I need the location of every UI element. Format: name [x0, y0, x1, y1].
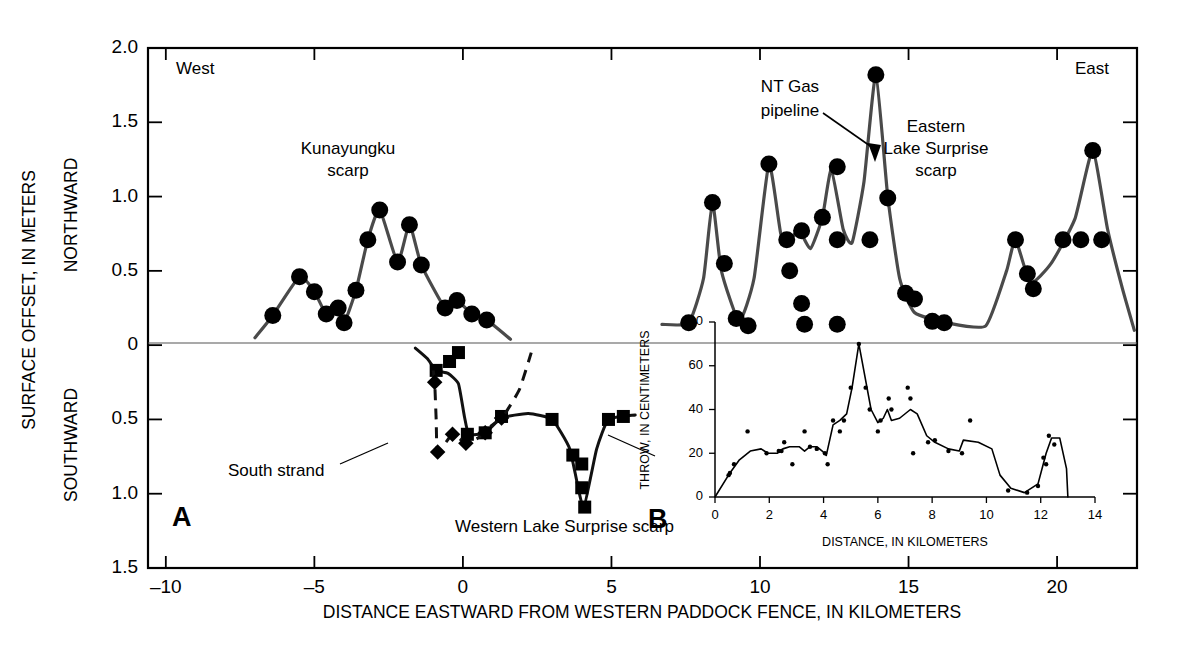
data-point-circle	[463, 305, 480, 322]
inset-data-point	[889, 407, 893, 411]
data-point-circle	[829, 231, 846, 248]
inset-data-point	[863, 385, 867, 389]
data-point-circle	[1072, 231, 1089, 248]
data-point-square	[602, 413, 615, 426]
inset-data-point	[728, 471, 732, 475]
inset-data-point	[1044, 462, 1048, 466]
data-point-circle	[861, 231, 878, 248]
inset-data-point	[1041, 455, 1045, 459]
inset-data-point	[887, 396, 891, 400]
x-tick-label: 0	[458, 576, 469, 597]
panel-a-label: A	[172, 502, 192, 532]
inset-data-point	[815, 447, 819, 451]
data-point-circle	[879, 190, 896, 207]
data-point-circle	[704, 194, 721, 211]
inset-x-tick-label: 0	[711, 507, 718, 522]
data-point-circle	[793, 295, 810, 312]
inset-data-point	[878, 418, 882, 422]
inset-data-point	[764, 451, 768, 455]
data-point-circle	[1055, 231, 1072, 248]
y-tick-label: 1.5	[112, 556, 138, 577]
data-point-circle	[291, 268, 308, 285]
data-point-circle	[793, 222, 810, 239]
data-point-circle	[371, 201, 388, 218]
inset-data-point	[908, 396, 912, 400]
inset-data-point	[1025, 490, 1029, 494]
data-point-circle	[778, 231, 795, 248]
inset-data-point	[946, 449, 950, 453]
data-point-circle	[716, 255, 733, 272]
inset-data-point	[868, 407, 872, 411]
y-tick-label: 0.5	[112, 407, 138, 428]
data-point-circle	[1093, 231, 1110, 248]
x-tick-label: 5	[606, 576, 617, 597]
data-point-square	[575, 458, 588, 471]
y-tick-label: 0	[127, 333, 138, 354]
figure-background	[0, 0, 1177, 665]
surface-offset-figure: –10–505101520 2.01.51.00.500.51.01.5 Wes…	[0, 0, 1177, 665]
data-point-circle	[336, 314, 353, 331]
inset-y-tick-label: 0	[696, 488, 703, 503]
inset-y-tick-label: 80	[689, 313, 703, 328]
inset-y-tick-label: 20	[689, 445, 703, 460]
inset-data-point	[808, 444, 812, 448]
ntgas-label-line2: pipeline	[761, 101, 820, 120]
kunayungku-label-line1: Kunayungku	[301, 139, 396, 158]
data-point-circle	[401, 216, 418, 233]
inset-data-point	[823, 451, 827, 455]
data-point-square	[575, 481, 588, 494]
data-point-square	[452, 346, 465, 359]
data-point-circle	[936, 314, 953, 331]
inset-data-point	[849, 385, 853, 389]
inset-data-point	[745, 429, 749, 433]
figure-root: –10–505101520 2.01.51.00.500.51.01.5 Wes…	[0, 0, 1177, 665]
data-point-circle	[448, 292, 465, 309]
data-point-square	[546, 413, 559, 426]
inset-data-point	[1047, 434, 1051, 438]
panel-b-label: B	[648, 504, 668, 534]
main-x-axis-title: DISTANCE EASTWARD FROM WESTERN PADDOCK F…	[323, 602, 961, 622]
inset-data-point	[1006, 488, 1010, 492]
inset-data-point	[933, 438, 937, 442]
data-point-circle	[1084, 142, 1101, 159]
inset-x-tick-label: 4	[820, 507, 827, 522]
west-label: West	[176, 59, 215, 78]
data-point-circle	[829, 316, 846, 333]
data-point-circle	[359, 231, 376, 248]
western-scarp-label: Western Lake Surprise scarp	[455, 517, 674, 536]
inset-data-point	[842, 418, 846, 422]
data-point-circle	[389, 253, 406, 270]
inset-data-point	[1052, 442, 1056, 446]
data-point-circle	[413, 256, 430, 273]
inset-data-point	[911, 451, 915, 455]
y-tick-label: 0.5	[112, 259, 138, 280]
inset-data-point	[790, 462, 794, 466]
data-point-circle	[1025, 280, 1042, 297]
data-point-circle	[330, 300, 347, 317]
inset-data-point	[926, 440, 930, 444]
inset-x-tick-label: 12	[1033, 507, 1047, 522]
inset-data-point	[831, 418, 835, 422]
inset-data-point	[779, 449, 783, 453]
ntgas-label-line1: NT Gas	[761, 77, 819, 96]
inset-data-point	[838, 429, 842, 433]
inset-data-point	[782, 440, 786, 444]
data-point-circle	[760, 155, 777, 172]
inset-x-tick-label: 14	[1088, 507, 1102, 522]
data-point-circle	[1007, 231, 1024, 248]
inset-y-tick-label: 40	[689, 401, 703, 416]
kunayungku-label-line2: scarp	[327, 161, 369, 180]
data-point-square	[578, 501, 591, 514]
eastern-scarp-label-line2: Lake Surprise	[884, 139, 989, 158]
data-point-circle	[264, 307, 281, 324]
data-point-circle	[740, 317, 757, 334]
inset-x-axis-title: DISTANCE, IN KILOMETERS	[822, 535, 988, 549]
inset-data-point	[906, 385, 910, 389]
y-tick-label: 2.0	[112, 36, 138, 57]
data-point-square	[617, 410, 630, 423]
data-point-square	[430, 364, 443, 377]
inset-data-point	[1036, 484, 1040, 488]
east-label: East	[1075, 59, 1109, 78]
data-point-circle	[906, 291, 923, 308]
south-strand-label: South strand	[228, 461, 324, 480]
